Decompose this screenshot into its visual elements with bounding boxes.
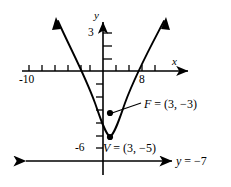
- y-tick-label-neg6: -6: [75, 142, 85, 154]
- x-tick-label-neg10: -10: [19, 74, 34, 86]
- x-axis-ticks: [29, 65, 155, 71]
- y-axis-name-label: y: [94, 10, 99, 21]
- x-tick-label-8: 8: [139, 74, 145, 86]
- y-tick-label-3: 3: [88, 27, 94, 39]
- x-axis: [22, 65, 188, 71]
- parabola-curve: [52, 17, 170, 137]
- y-axis-ticks: [96, 33, 112, 148]
- vertex-annotation-label: V = (3, −5): [103, 142, 156, 154]
- focus-point: [107, 110, 113, 116]
- directrix-annotation-label: y = −7: [176, 155, 207, 167]
- focus-annotation-label: F = (3, −3): [144, 98, 197, 110]
- focus-leader-line: [112, 103, 141, 113]
- parabola-figure: -10 8 3 -6 x y F = (3, −3) V = (3, −5) y…: [0, 0, 231, 187]
- vertex-point: [107, 134, 113, 140]
- x-axis-name-label: x: [172, 56, 177, 67]
